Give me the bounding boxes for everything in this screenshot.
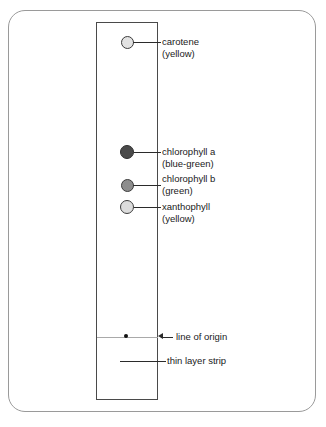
label-carotene-color: (yellow)	[162, 48, 199, 60]
diagram-canvas: carotene (yellow) chlorophyll a (blue-gr…	[0, 0, 326, 427]
arrow-left-icon	[158, 333, 163, 339]
leader-line-thin-layer-strip	[120, 361, 166, 362]
label-chlorophyll-a-name: chlorophyll a	[162, 146, 215, 157]
label-line-of-origin-text: line of origin	[176, 331, 227, 342]
label-chlorophyll-b-color: (green)	[162, 185, 215, 197]
leader-line-chlorophyll-b	[133, 185, 161, 186]
leader-line-chlorophyll-a	[134, 152, 161, 153]
leader-line-xanthophyll	[134, 207, 161, 208]
label-chlorophyll-b-name: chlorophyll b	[162, 173, 215, 184]
leader-line-line-of-origin	[161, 337, 173, 338]
label-thin-layer-strip-text: thin layer strip	[167, 355, 226, 366]
label-chlorophyll-a: chlorophyll a (blue-green)	[162, 146, 215, 169]
label-line-of-origin: line of origin	[176, 331, 227, 343]
label-xanthophyll-color: (yellow)	[162, 213, 210, 225]
label-carotene-name: carotene	[162, 36, 199, 47]
label-chlorophyll-a-color: (blue-green)	[162, 158, 215, 170]
label-xanthophyll: xanthophyll (yellow)	[162, 201, 210, 224]
label-xanthophyll-name: xanthophyll	[162, 201, 210, 212]
label-chlorophyll-b: chlorophyll b (green)	[162, 173, 215, 196]
line-of-origin-dot	[124, 334, 128, 338]
spot-xanthophyll	[120, 200, 134, 214]
leader-line-carotene	[133, 42, 161, 43]
spot-chlorophyll-a	[120, 145, 134, 159]
spot-carotene	[121, 36, 134, 49]
label-carotene: carotene (yellow)	[162, 36, 199, 59]
spot-chlorophyll-b	[121, 179, 134, 192]
label-thin-layer-strip: thin layer strip	[167, 355, 226, 367]
